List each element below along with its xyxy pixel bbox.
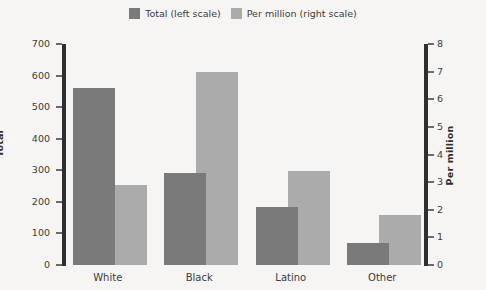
bar-total-white [73,88,115,265]
category-label-other: Other [337,272,429,283]
right-tick-mark [428,98,434,100]
left-tick-label: 300 [32,165,50,175]
right-tick-label: 5 [437,122,443,132]
right-tick-mark [428,71,434,73]
left-tick-label: 700 [32,39,50,49]
right-tick-label: 0 [437,260,443,270]
bar-total-other [347,243,389,265]
left-tick-mark [56,138,62,140]
right-tick-mark [428,264,434,266]
left-tick-mark [56,75,62,77]
right-tick-label: 7 [437,67,443,77]
left-tick-mark [56,43,62,45]
right-tick-mark [428,43,434,45]
right-tick-label: 6 [437,94,443,104]
left-axis-title: Total [0,130,5,157]
left-tick-label: 100 [32,228,50,238]
right-tick-label: 3 [437,177,443,187]
right-tick-label: 4 [437,150,443,160]
left-axis-spine [62,44,66,266]
left-tick-label: 600 [32,71,50,81]
bar-chart: 0100200300400500600700 012345678 Total P… [0,0,486,290]
left-tick-label: 200 [32,197,50,207]
left-tick-label: 500 [32,102,50,112]
left-tick-label: 0 [44,260,50,270]
right-tick-label: 8 [437,39,443,49]
left-tick-mark [56,106,62,108]
right-tick-mark [428,181,434,183]
right-tick-mark [428,236,434,238]
right-tick-mark [428,209,434,211]
left-tick-mark [56,264,62,266]
right-tick-mark [428,126,434,128]
left-tick-label: 400 [32,134,50,144]
bar-total-black [164,173,206,265]
left-tick-mark [56,169,62,171]
left-tick-mark [56,201,62,203]
left-tick-mark [56,232,62,234]
category-label-white: White [62,272,154,283]
bar-total-latino [256,207,298,265]
right-tick-mark [428,154,434,156]
right-tick-label: 2 [437,205,443,215]
right-tick-label: 1 [437,232,443,242]
category-label-latino: Latino [245,272,337,283]
category-label-black: Black [154,272,246,283]
right-axis-title: Per million [444,126,455,186]
